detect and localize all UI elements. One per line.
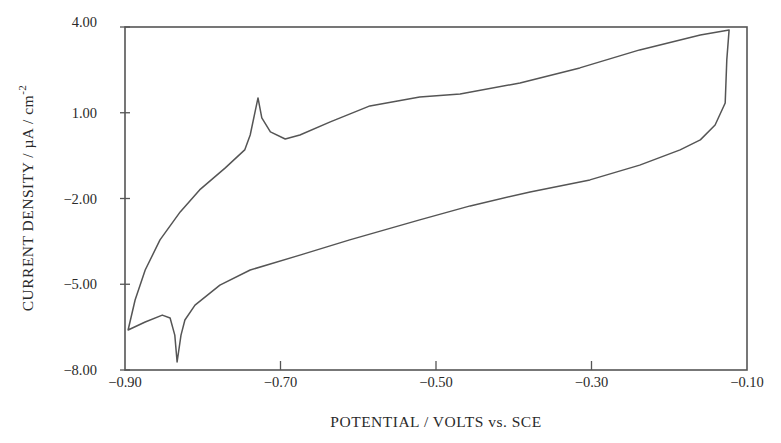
y-tick-label: 1.00	[72, 105, 97, 121]
cv-curve	[128, 30, 729, 362]
x-tick-label: −0.90	[108, 374, 142, 390]
y-axis-title-superscript: -2	[16, 85, 28, 95]
plot-frame	[125, 27, 747, 370]
y-axis-title-main: CURRENT DENSITY / µA / cm	[19, 95, 36, 311]
y-tick-label: −5.00	[63, 276, 97, 292]
x-axis-ticks: −0.90−0.70−0.50−0.30−0.10	[108, 361, 764, 390]
x-tick-label: −0.50	[419, 374, 453, 390]
y-tick-label: −2.00	[63, 191, 97, 207]
x-tick-label: −0.70	[264, 374, 298, 390]
x-axis-title: POTENTIAL / VOLTS vs. SCE	[330, 413, 541, 430]
voltammogram-chart: 4.001.00−2.00−5.00−8.00 −0.90−0.70−0.50−…	[0, 0, 781, 443]
x-tick-label: −0.10	[730, 374, 764, 390]
y-axis-ticks: 4.001.00−2.00−5.00−8.00	[63, 14, 130, 378]
y-axis-title: CURRENT DENSITY / µA / cm-2	[16, 85, 36, 312]
y-tick-label: −8.00	[63, 362, 97, 378]
y-tick-label: 4.00	[72, 14, 97, 30]
x-tick-label: −0.30	[575, 374, 609, 390]
